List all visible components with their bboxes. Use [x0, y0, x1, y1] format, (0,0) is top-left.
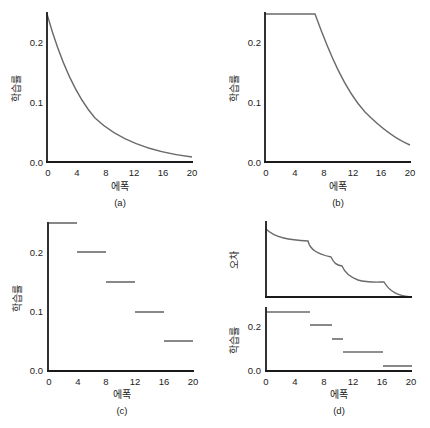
plot-a-ylabel: 학습률	[11, 75, 22, 102]
plot-d-xlabel: 에폭	[330, 389, 348, 400]
plot-a-xtick: 20	[187, 167, 198, 178]
plot-a-ytick: 0.2	[30, 37, 43, 48]
plot-d-xtick: 4	[292, 376, 297, 387]
plot-c-ytick: 0.0	[30, 365, 43, 376]
plot-c-xlabel: 에폭	[113, 389, 131, 400]
plot-b: 0.2 0.1 0.0 0 4 8 12 16 20 에폭 학습률 (b)	[229, 12, 415, 208]
plot-c-xtick: 12	[130, 376, 141, 387]
plot-d-xtick: 20	[406, 376, 417, 387]
plot-d-xtick: 16	[377, 376, 388, 387]
plot-d-ytick: 0.2	[248, 321, 261, 332]
plot-a-xlabel: 에폭	[111, 181, 129, 192]
plot-a-caption: (a)	[114, 197, 126, 208]
plot-b-ytick: 0.2	[248, 37, 261, 48]
plot-b-ylabel: 학습률	[229, 75, 240, 102]
plot-c-xtick: 0	[46, 376, 51, 387]
plot-b-xtick: 16	[376, 167, 387, 178]
plot-a-ytick: 0.1	[30, 97, 43, 108]
plot-d-xtick: 0	[263, 376, 268, 387]
plot-d-xtick: 8	[321, 376, 326, 387]
plot-d-error-curve	[266, 229, 412, 297]
plot-b-ytick: 0.0	[248, 157, 261, 168]
plot-c: 0.2 0.1 0.0 0 4 8 12 16 20 에폭 학습률 (c)	[12, 222, 198, 416]
plot-c-ytick: 0.2	[30, 247, 43, 258]
plot-a: 0.2 0.1 0.0 0 4 8 12 16 20 에폭 학습률 (a)	[11, 12, 197, 208]
plot-c-caption: (c)	[116, 405, 127, 416]
plot-c-ylabel: 학습률	[12, 285, 23, 312]
plot-a-xtick: 0	[45, 167, 50, 178]
plot-c-xtick: 20	[188, 376, 199, 387]
plot-a-ytick: 0.0	[30, 157, 43, 168]
plot-a-xtick: 16	[158, 167, 169, 178]
plot-a-xtick: 8	[103, 167, 108, 178]
plot-d-xtick: 12	[348, 376, 359, 387]
plot-c-xtick: 16	[159, 376, 170, 387]
plot-b-xtick: 12	[348, 167, 359, 178]
plot-c-ytick: 0.1	[30, 306, 43, 317]
figure: 0.2 0.1 0.0 0 4 8 12 16 20 에폭 학습률 (a) 0.…	[0, 0, 430, 428]
plot-b-xlabel: 에폭	[329, 181, 347, 192]
plot-b-ytick: 0.1	[248, 97, 261, 108]
plot-b-xtick: 0	[263, 167, 268, 178]
plot-a-xtick: 4	[74, 167, 79, 178]
plot-d-ytick: 0.0	[248, 365, 261, 376]
plot-d-caption: (d)	[333, 405, 345, 416]
plot-a-curve	[47, 14, 192, 157]
plot-b-xtick: 4	[292, 167, 297, 178]
plot-d-error-ylabel: 오차	[229, 251, 240, 269]
plot-b-xtick: 8	[321, 167, 326, 178]
plot-d-lr-ylabel: 학습률	[229, 327, 240, 354]
plot-a-xtick: 12	[129, 167, 140, 178]
plot-c-xtick: 4	[75, 376, 80, 387]
plot-d: 오차 0.2 0.0 0 4 8 12 16 20 에폭 학습률 (d)	[229, 221, 416, 416]
plot-b-xtick: 20	[405, 167, 416, 178]
plot-b-caption: (b)	[332, 197, 344, 208]
plot-c-xtick: 8	[103, 376, 108, 387]
plot-b-curve	[265, 14, 410, 145]
